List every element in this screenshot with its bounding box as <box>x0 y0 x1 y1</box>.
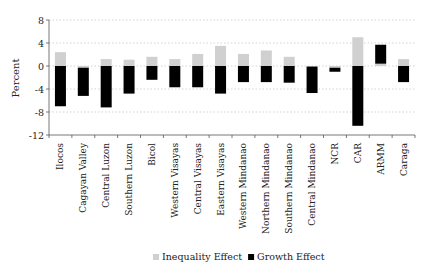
x-category-label: Eastern Visayas <box>216 143 226 216</box>
x-category-label: Western Visayas <box>170 143 180 218</box>
bar-growth-effect <box>329 68 340 72</box>
bar-growth-effect <box>169 66 180 87</box>
bar-inequality-effect <box>284 57 295 66</box>
bar-growth-effect <box>192 66 203 87</box>
bar-inequality-effect <box>261 50 272 66</box>
x-category-label: Cagayan Valley <box>78 142 88 213</box>
x-category-label: Western Mindanao <box>238 143 248 229</box>
bar-inequality-effect <box>169 59 180 66</box>
y-tick-label: -8 <box>35 107 44 118</box>
bar-growth-effect <box>375 45 386 64</box>
bar-inequality-effect <box>78 66 89 68</box>
legend-swatch <box>248 254 254 260</box>
bar-growth-effect <box>78 68 89 96</box>
x-category-label: Southern Mindanao <box>284 143 294 234</box>
y-axis-ticks: 840-4-8-12 <box>29 15 49 141</box>
y-axis-label: Percent <box>10 59 21 98</box>
legend-label: Inequality Effect <box>162 251 242 262</box>
bar-growth-effect <box>238 66 249 82</box>
bar-inequality-effect <box>329 66 340 68</box>
bar-growth-effect <box>398 66 409 82</box>
x-category-label: Central Visayas <box>193 143 203 215</box>
x-category-label: NCR <box>330 143 340 165</box>
bar-inequality-effect <box>124 60 135 66</box>
bar-inequality-effect <box>101 59 112 66</box>
x-category-label: Central Luzon <box>101 143 111 208</box>
bar-growth-effect <box>352 66 363 126</box>
bar-growth-effect <box>101 66 112 107</box>
chart-canvas: 840-4-8-12 IlocosCagayan ValleyCentral L… <box>0 0 425 272</box>
y-tick-label: 4 <box>38 38 44 49</box>
bar-inequality-effect <box>307 66 318 67</box>
legend: Inequality EffectGrowth Effect <box>153 251 325 262</box>
bar-growth-effect <box>215 66 226 94</box>
x-axis-ticks: IlocosCagayan ValleyCentral LuzonSouther… <box>49 135 415 234</box>
x-category-label: Ilocos <box>55 143 65 170</box>
bar-inequality-effect <box>215 46 226 66</box>
bar-growth-effect <box>261 66 272 82</box>
x-category-label: Southern Luzon <box>124 143 134 216</box>
y-tick-label: 8 <box>38 15 44 26</box>
bar-growth-effect <box>307 67 318 93</box>
bar-growth-effect <box>146 66 157 80</box>
bar-inequality-effect <box>398 59 409 66</box>
y-tick-label: -4 <box>35 84 44 95</box>
bar-growth-effect <box>124 66 135 94</box>
bars <box>55 37 409 126</box>
y-tick-label: -12 <box>29 130 44 141</box>
x-category-label: Bicol <box>147 143 157 166</box>
bar-inequality-effect <box>146 57 157 66</box>
bar-inequality-effect <box>352 37 363 66</box>
x-category-label: Central Mindanao <box>307 143 317 226</box>
y-tick-label: 0 <box>38 61 44 72</box>
legend-swatch <box>153 254 159 260</box>
x-category-label: Northern Mindanao <box>261 143 271 234</box>
x-category-label: ARMM <box>376 143 386 176</box>
x-category-label: Caraga <box>399 142 409 176</box>
legend-label: Growth Effect <box>257 251 325 262</box>
bar-inequality-effect <box>238 54 249 66</box>
bar-growth-effect <box>284 66 295 83</box>
bar-inequality-effect <box>192 54 203 66</box>
bar-inequality-effect <box>55 52 66 66</box>
stacked-bar-chart: 840-4-8-12 IlocosCagayan ValleyCentral L… <box>0 0 425 272</box>
x-category-label: CAR <box>353 143 363 163</box>
bar-growth-effect <box>55 66 66 106</box>
bar-inequality-effect <box>375 64 386 66</box>
